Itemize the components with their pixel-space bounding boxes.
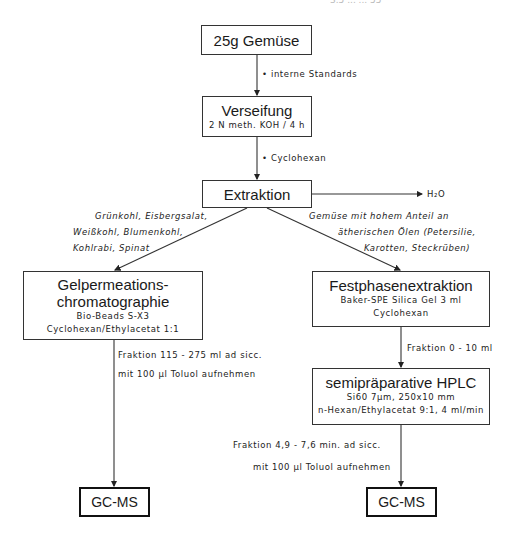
node-saponification: Verseifung 2 N meth. KOH / 4 h [202,96,312,137]
label-right-branch-1: Gemüse mit hohem Anteil an [309,211,449,221]
node-spe-detail-2: Cyclohexan [313,307,489,320]
node-gpc-detail-1: Bio-Beads S-X3 [24,310,202,323]
label-spe-fraction: Fraktion 0 - 10 ml [407,343,493,353]
node-spe: Festphasenextraktion Baker-SPE Silica Ge… [312,271,490,327]
running-head: 3.5 ... ... 55 [330,0,382,5]
label-right-branch-2: ätherischen Ölen (Petersilie, [338,227,476,237]
node-hplc-detail-2: n-Hexan/Ethylacetat 9:1, 4 ml/min [313,404,489,417]
label-right-branch-3: Karotten, Steckrüben) [364,243,470,253]
node-hplc: semipräparative HPLC Si60 7µm, 250x10 mm… [312,368,490,425]
node-gcms-left: GC-MS [79,487,150,517]
node-gcms-right-title: GC-MS [368,494,435,511]
node-gpc-title-2: chromatographie [24,293,202,310]
label-internal-standards: • interne Standards [262,69,357,79]
node-extraction-title: Extraktion [203,186,311,203]
node-gpc-detail-2: Cyclohexan/Ethylacetat 1:1 [24,323,202,336]
label-left-branch-3: Kohlrabi, Spinat [73,243,150,253]
label-gpc-fraction-2: mit 100 µl Toluol aufnehmen [118,369,256,379]
node-hplc-detail-1: Si60 7µm, 250x10 mm [313,391,489,404]
label-hplc-fraction-1: Fraktion 4,9 - 7,6 min. ad sicc. [233,440,381,450]
label-cyclohexane: • Cyclohexan [262,153,326,163]
label-left-branch-2: Weißkohl, Blumenkohl, [73,227,183,237]
node-spe-title: Festphasenextraktion [313,277,489,294]
node-hplc-title: semipräparative HPLC [313,374,489,391]
node-extraction: Extraktion [202,180,312,208]
node-saponification-detail: 2 N meth. KOH / 4 h [203,119,311,132]
node-gpc-title-1: Gelpermeations- [24,276,202,293]
node-gpc: Gelpermeations- chromatographie Bio-Bead… [23,271,203,340]
node-gcms-right: GC-MS [366,487,437,517]
node-sample: 25g Gemüse [201,25,312,55]
node-gcms-left-title: GC-MS [81,494,148,511]
label-hplc-fraction-2: mit 100 µl Toluol aufnehmen [253,462,391,472]
node-sample-title: 25g Gemüse [202,32,311,49]
label-water: H₂O [427,189,445,199]
label-left-branch-1: Grünkohl, Eisbergsalat, [95,211,208,221]
node-spe-detail-1: Baker-SPE Silica Gel 3 ml [313,294,489,307]
connector-lines [0,0,523,534]
label-gpc-fraction-1: Fraktion 115 - 275 ml ad sicc. [118,350,262,360]
node-saponification-title: Verseifung [203,102,311,119]
